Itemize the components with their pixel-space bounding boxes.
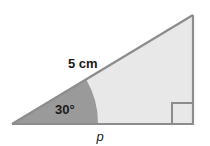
base-side-label: p xyxy=(95,129,103,144)
angle-label: 30° xyxy=(55,102,75,117)
hypotenuse-length-label: 5 cm xyxy=(68,56,98,71)
geometry-figure-container: 5 cm 30° p xyxy=(0,0,210,146)
triangle-diagram: 5 cm 30° p xyxy=(0,0,210,146)
